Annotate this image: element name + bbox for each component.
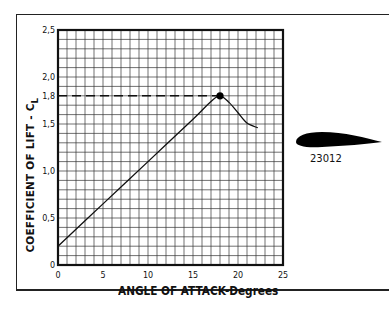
y-tick-label: 0,5 — [42, 214, 55, 223]
x-tick-label: 20 — [233, 271, 243, 280]
y-tick-label: 1,0 — [42, 167, 55, 176]
y-axis-label-subscript: L — [30, 98, 40, 104]
x-tick-label: 10 — [143, 271, 153, 280]
x-tick-label: 5 — [100, 271, 105, 280]
x-axis-label: ANGLE OF ATTACK-Degrees — [118, 283, 278, 298]
x-tick-label: 25 — [278, 271, 288, 280]
y-axis-label: COEFFICIENT OF LIFT - CL — [24, 63, 39, 253]
cl-max-point — [216, 92, 223, 99]
plot-border — [58, 30, 283, 265]
y-tick-label: 2,5 — [42, 26, 55, 35]
y-tick-label: 2,0 — [42, 73, 55, 82]
x-tick-label: 0 — [55, 271, 60, 280]
y-tick-label: 1,8 — [42, 92, 55, 101]
y-axis-label-text: COEFFICIENT OF LIFT - C — [24, 103, 36, 252]
y-tick-label: 1,5 — [42, 120, 55, 129]
airfoil-label: 23012 — [310, 153, 342, 164]
x-tick-label: 15 — [188, 271, 198, 280]
airfoil-23012-icon — [296, 132, 382, 147]
y-tick-label: 0 — [50, 261, 55, 270]
